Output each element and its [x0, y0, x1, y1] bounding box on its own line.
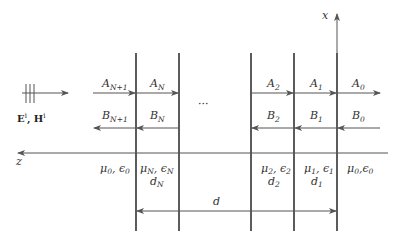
- interfaces: [136, 53, 337, 231]
- ellipsis: ···: [198, 98, 209, 111]
- label-b-0: B0: [351, 109, 365, 124]
- region-label-1: μ1, ϵ1: [304, 162, 334, 176]
- incident-wave-icon: [22, 84, 68, 103]
- region-label-outer-left: μ0, ϵ0: [100, 162, 130, 176]
- label-b-1: B1: [309, 109, 323, 124]
- incident-field-label: Ei, Hi: [17, 112, 46, 125]
- label-a-n: AN: [149, 77, 165, 92]
- label-a-2: A2: [266, 77, 280, 92]
- region-label-outer-right: μ0,ϵ0: [347, 162, 374, 176]
- total-thickness-label: d: [213, 195, 220, 208]
- label-b-2: B2: [266, 109, 280, 124]
- label-a-1: A1: [309, 77, 323, 92]
- thickness-label-n: dN: [150, 175, 164, 189]
- z-axis-label: z: [15, 155, 22, 168]
- label-a-n-plus-1: AN+1: [101, 77, 128, 92]
- x-axis-label: x: [322, 9, 329, 22]
- multilayer-slab-diagram: x z Ei, Hi AN+1 AN A2 A1 A0 BN+1 BN B2 B…: [0, 0, 396, 244]
- region-label-2: μ2, ϵ2: [261, 162, 291, 176]
- label-b-n: BN: [149, 109, 165, 124]
- label-a-0: A0: [351, 77, 365, 92]
- label-b-n-plus-1: BN+1: [101, 109, 128, 124]
- thickness-label-2: d2: [268, 175, 280, 189]
- thickness-label-1: d1: [311, 175, 323, 189]
- region-label-n: μN, ϵN: [140, 162, 174, 176]
